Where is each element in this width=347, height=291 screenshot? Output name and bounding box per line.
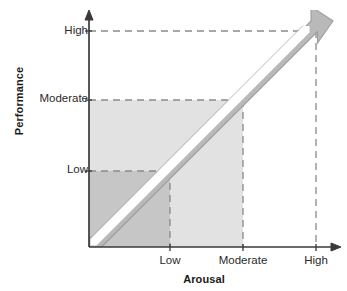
y-axis-arrowhead — [85, 10, 93, 20]
x-tick-label-high: High — [288, 254, 344, 266]
x-tick-label-low: Low — [140, 254, 200, 266]
x-tick-label-moderate: Moderate — [207, 254, 279, 266]
y-tick-label-low: Low — [67, 163, 88, 175]
chart-figure: Performance Arousal High Moderate Low Lo… — [0, 0, 347, 291]
y-axis-title: Performance — [13, 56, 25, 146]
chart-plot-area — [0, 0, 347, 291]
x-axis-arrowhead — [331, 243, 341, 251]
x-axis-title: Arousal — [88, 273, 320, 285]
y-tick-label-high: High — [64, 24, 88, 36]
y-tick-label-moderate: Moderate — [39, 92, 88, 104]
